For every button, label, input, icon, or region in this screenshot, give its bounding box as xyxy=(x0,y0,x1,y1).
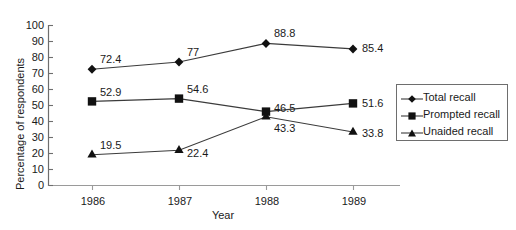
x-tick-label-1986: 1986 xyxy=(62,196,124,207)
series-line-prompted-recall xyxy=(92,99,353,112)
point-label-prompted-1987: 54.6 xyxy=(187,84,208,95)
series-markers-total-recall xyxy=(88,39,358,74)
y-tick-marks xyxy=(49,26,54,186)
legend-label-prompted-recall: Prompted recall xyxy=(423,108,500,120)
legend-label-unaided-recall: Unaided recall xyxy=(423,125,493,137)
x-tick-label-1989: 1989 xyxy=(323,196,385,207)
x-tick-marks xyxy=(93,186,354,191)
point-label-total-1988: 88.8 xyxy=(274,28,295,39)
point-label-unaided-1988: 43.3 xyxy=(274,123,295,134)
triangle-marker-icon xyxy=(401,125,423,137)
recall-line-chart: 100 90 80 70 60 50 40 30 20 10 0 1986 19… xyxy=(0,0,516,230)
point-label-total-1987: 77 xyxy=(187,47,199,58)
x-axis-title: Year xyxy=(192,209,254,221)
point-label-unaided-1987: 22.4 xyxy=(187,148,208,159)
point-label-unaided-1986: 19.5 xyxy=(100,140,121,151)
x-tick-label-1987: 1987 xyxy=(149,196,211,207)
point-label-prompted-1986: 52.9 xyxy=(100,87,121,98)
diamond-marker-icon xyxy=(401,91,423,103)
series-markers-unaided-recall xyxy=(87,112,357,158)
point-label-total-1989: 85.4 xyxy=(362,43,383,54)
legend-item-unaided-recall[interactable]: Unaided recall xyxy=(401,122,493,139)
point-label-unaided-1989: 33.8 xyxy=(362,128,383,139)
legend-item-prompted-recall[interactable]: Prompted recall xyxy=(401,105,500,122)
y-tick-label-90: 90 xyxy=(10,36,44,47)
point-label-prompted-1988: 46.5 xyxy=(274,103,295,114)
point-label-prompted-1989: 51.6 xyxy=(362,98,383,109)
legend-label-total-recall: Total recall xyxy=(423,91,476,103)
y-axis-title: Percentage of respondents xyxy=(14,58,26,190)
y-tick-label-100: 100 xyxy=(10,20,44,31)
series-line-unaided-recall xyxy=(92,117,353,155)
square-marker-icon xyxy=(401,108,423,120)
point-label-total-1986: 72.4 xyxy=(100,54,121,65)
series-line-total-recall xyxy=(92,43,353,69)
legend-item-total-recall[interactable]: Total recall xyxy=(401,88,476,105)
x-tick-label-1988: 1988 xyxy=(236,196,298,207)
legend: Total recall Prompted recall Unaided rec… xyxy=(396,84,508,141)
